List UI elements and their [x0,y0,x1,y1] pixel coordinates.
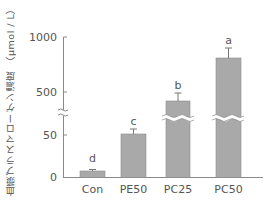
bar-chart: 血漿プラスマローゲン濃度 （μmol / L） 1000 500 50 0 d … [0,0,276,209]
bar-pe50 [121,134,146,178]
bar-con [80,171,105,178]
y-tick-label: 50 [43,129,57,142]
axis-break-icon [58,114,68,116]
y-tick-label: 500 [36,86,57,99]
x-tick-label: Con [82,183,103,196]
bar-pc25 [166,101,190,178]
y-tick-label: 1000 [29,31,57,44]
sig-letter: a [225,34,232,47]
x-tick-label: PC25 [164,183,192,196]
chart-plot: 1000 500 50 0 d c b a Con PE50 [0,0,276,209]
sig-letter: d [89,152,96,165]
x-tick-label: PC50 [214,183,242,196]
y-tick-label: 0 [50,171,57,184]
sig-letter: b [175,79,182,92]
sig-letter: c [130,115,136,128]
x-tick-label: PE50 [120,183,148,196]
y-axis-label: 血漿プラスマローゲン濃度 （μmol / L） [4,36,20,196]
